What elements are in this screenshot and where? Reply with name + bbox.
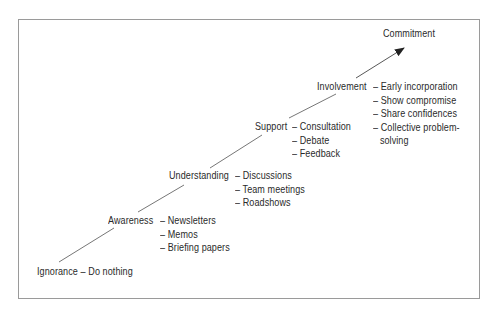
action-item: – Roadshows [235, 196, 305, 210]
action-list-involvement: – Early incorporation – Show compromise … [373, 80, 460, 148]
stage-label-understanding: Understanding [169, 169, 229, 183]
stage-label-awareness: Awareness [108, 214, 153, 228]
stage-label-support: Support [255, 120, 287, 134]
action-item: – Show compromise [373, 94, 460, 108]
action-list-understanding: – Discussions – Team meetings – Roadshow… [235, 169, 305, 210]
arrow-to-commitment [356, 48, 404, 78]
action-item: – Briefing papers [160, 241, 230, 255]
path-segment-support-involvement [289, 94, 336, 118]
action-item: – Early incorporation [373, 80, 460, 94]
goal-label-commitment: Commitment [383, 27, 435, 41]
action-item: – Collective problem- [373, 121, 460, 135]
action-item: – Share confidences [373, 107, 460, 121]
stage-ignorance: Ignorance – Do nothing [37, 265, 133, 279]
stage-label: Ignorance [37, 265, 78, 277]
path-segment-understanding-support [210, 135, 262, 168]
action-list-support: – Consultation – Debate – Feedback [292, 120, 351, 161]
action-item: – Memos [160, 228, 230, 242]
path-segment-ignorance-awareness [59, 228, 114, 262]
action-item-continuation: solving [373, 134, 460, 148]
action-item: – Debate [292, 134, 351, 148]
dash: – [81, 265, 86, 277]
action-list-awareness: – Newsletters – Memos – Briefing papers [160, 214, 230, 255]
action-item: – Consultation [292, 120, 351, 134]
action-item: – Feedback [292, 147, 351, 161]
action-item: – Team meetings [235, 183, 305, 197]
action-item: Do nothing [88, 265, 133, 277]
stage-label-involvement: Involvement [317, 80, 367, 94]
action-item: – Discussions [235, 169, 305, 183]
action-item: – Newsletters [160, 214, 230, 228]
path-segment-awareness-understanding [138, 185, 184, 212]
